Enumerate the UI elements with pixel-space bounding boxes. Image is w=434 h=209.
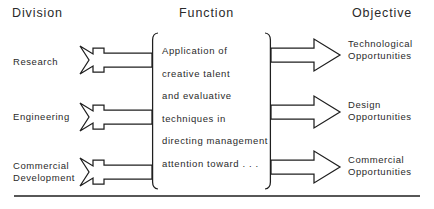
objective-label-1-line1: Technological	[348, 38, 413, 50]
fletched-arrow-right-icon	[80, 158, 152, 186]
objective-label-1-line2: Opportunities	[348, 50, 413, 62]
objective-label-technological-opportunities: Technological Opportunities	[348, 38, 413, 61]
fletched-arrow-right-icon	[80, 46, 152, 74]
hollow-arrow-right-icon	[271, 96, 340, 128]
hollow-arrow-right-icon	[271, 151, 340, 183]
right-brace-icon	[265, 33, 270, 189]
function-text-line-5: directing management	[162, 130, 262, 153]
column-header-division: Division	[12, 6, 63, 20]
division-label-commercial-line1: Commercial	[13, 160, 75, 172]
function-text-line-1: Application of	[162, 40, 262, 63]
objective-label-3-line1: Commercial	[348, 154, 412, 166]
division-label-commercial-development: Commercial Development	[13, 160, 75, 183]
column-header-objective: Objective	[352, 6, 412, 20]
function-text-line-4: techniques in	[162, 108, 262, 131]
objective-label-commercial-opportunities: Commercial Opportunities	[348, 154, 412, 177]
function-objective-diagram: Division Function Objective Research Eng…	[0, 0, 434, 209]
function-text-line-2: creative talent	[162, 63, 262, 86]
function-text-line-3: and evaluative	[162, 85, 262, 108]
objective-label-3-line2: Opportunities	[348, 166, 412, 178]
objective-label-2-line1: Design	[348, 99, 412, 111]
function-text-line-6: attention toward . . .	[162, 153, 262, 176]
left-brace-icon	[153, 33, 158, 189]
objective-label-design-opportunities: Design Opportunities	[348, 99, 412, 122]
division-label-commercial-line2: Development	[13, 172, 75, 184]
function-text-block: Application of creative talent and evalu…	[162, 40, 262, 175]
division-label-engineering: Engineering	[13, 111, 70, 123]
division-label-research: Research	[13, 56, 58, 68]
objective-label-2-line2: Opportunities	[348, 111, 412, 123]
column-header-function: Function	[179, 6, 234, 20]
hollow-arrow-right-icon	[271, 39, 340, 71]
fletched-arrow-right-icon	[80, 103, 152, 131]
